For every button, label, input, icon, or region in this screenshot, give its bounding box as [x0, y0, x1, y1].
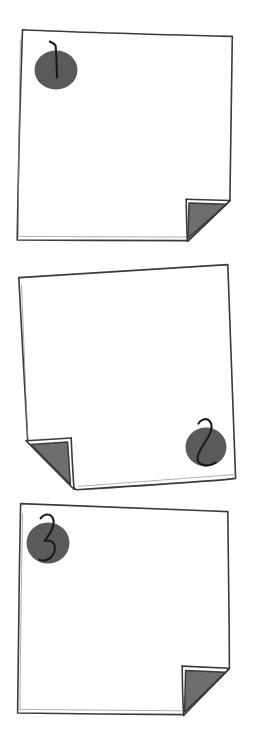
- card-stack: 1 2: [0, 0, 255, 738]
- cards-illustration: 1 2: [0, 0, 255, 738]
- card-3-sticker[interactable]: [27, 523, 70, 564]
- card-2-sticker[interactable]: [186, 428, 227, 467]
- card-1[interactable]: 1: [17, 30, 233, 242]
- card-3[interactable]: 3: [18, 504, 230, 716]
- card-2[interactable]: 2: [19, 265, 237, 490]
- card-2-fold-triangle: [31, 442, 70, 485]
- card-3-fold-triangle: [185, 670, 226, 712]
